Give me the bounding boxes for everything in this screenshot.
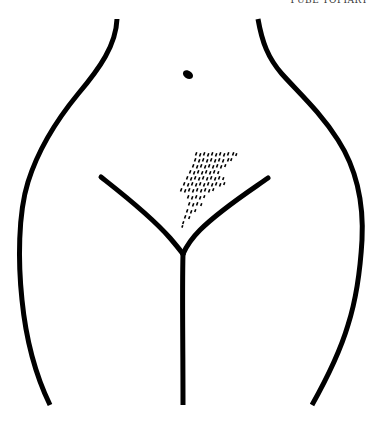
navel (183, 70, 193, 79)
right-hip-contour (258, 19, 362, 405)
groin-v-left (101, 177, 183, 254)
left-hip-contour (20, 19, 117, 405)
torso-illustration (0, 0, 382, 423)
lightning-bolt-hair-pattern (180, 152, 238, 228)
groin-v-right (183, 178, 268, 254)
